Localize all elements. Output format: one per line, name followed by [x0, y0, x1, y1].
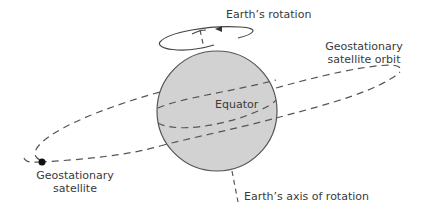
- label-earth-rotation: Earth’s rotation: [226, 8, 311, 21]
- label-orbit-line1: Geostationary: [312, 40, 416, 53]
- label-axis: Earth’s axis of rotation: [244, 190, 369, 203]
- label-satellite-line1: Geostationary: [30, 169, 120, 182]
- earth: [157, 51, 277, 171]
- label-equator: Equator: [215, 98, 258, 111]
- label-satellite-line2: satellite: [30, 182, 120, 195]
- rotation-ellipse: [159, 27, 253, 50]
- axis-top: [200, 30, 204, 48]
- label-orbit: Geostationary satellite orbit: [312, 40, 416, 66]
- satellite-dot-icon: [39, 159, 46, 166]
- axis-bottom: [232, 171, 238, 202]
- label-orbit-line2: satellite orbit: [312, 53, 416, 66]
- label-satellite: Geostationary satellite: [30, 169, 120, 195]
